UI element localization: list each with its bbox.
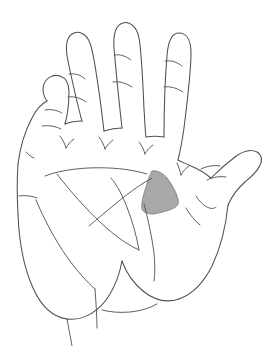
figure-background bbox=[0, 0, 273, 346]
hand-diagram-svg bbox=[0, 0, 273, 346]
hand-figure-container bbox=[0, 0, 273, 346]
